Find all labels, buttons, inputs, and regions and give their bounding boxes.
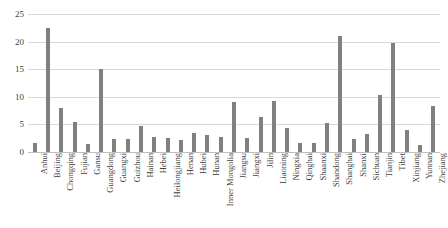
x-axis-tick-label: Hunan xyxy=(211,153,222,228)
bar xyxy=(46,28,50,152)
x-axis-tick-label: Beijing xyxy=(52,153,63,228)
bar xyxy=(219,137,223,152)
bar xyxy=(405,130,409,152)
x-axis-tick-label: Shanghai xyxy=(344,153,355,228)
bar xyxy=(391,43,395,152)
x-axis-tick-label: Sichuan xyxy=(371,153,382,228)
bar xyxy=(152,137,156,152)
x-axis-tick-label: Guizhou xyxy=(132,153,143,228)
bar xyxy=(205,135,209,152)
x-axis-tick-label: Tianjin xyxy=(384,153,395,228)
bar xyxy=(338,36,342,152)
x-axis: AnhuiBeijingChongqingFujianGansuGuangdon… xyxy=(28,153,440,228)
bar xyxy=(166,138,170,152)
bar xyxy=(259,117,263,152)
x-axis-tick-label: Zhejiang xyxy=(437,153,448,228)
bar xyxy=(245,138,249,152)
x-axis-tick-label: Chongqing xyxy=(65,153,76,228)
bar xyxy=(298,143,302,152)
y-axis-tick-label: 0 xyxy=(0,148,24,157)
bar xyxy=(312,143,316,152)
x-axis-tick-label: Qinghai xyxy=(304,153,315,228)
x-axis-tick-label: Hebei xyxy=(158,153,169,228)
x-axis-tick-label: Xinjiang xyxy=(411,153,422,228)
y-axis-tick-label: 10 xyxy=(0,92,24,101)
bar xyxy=(192,133,196,152)
bar xyxy=(59,108,63,152)
bar xyxy=(112,139,116,152)
bar xyxy=(378,95,382,152)
y-axis-tick-label: 25 xyxy=(0,10,24,19)
x-axis-tick-label: Henan xyxy=(185,153,196,228)
bar xyxy=(325,123,329,152)
bar xyxy=(232,102,236,152)
x-axis-tick-label: Tibet xyxy=(397,153,408,228)
bar xyxy=(272,101,276,152)
x-axis-tick-label: Guangxi xyxy=(118,153,129,228)
x-axis-tick-label: Shandong xyxy=(331,153,342,228)
x-axis-tick-label: Inner Mongolia xyxy=(225,153,236,228)
bar xyxy=(431,106,435,152)
x-axis-tick-label: Jiangxi xyxy=(251,153,262,228)
bar xyxy=(99,69,103,152)
bar xyxy=(126,139,130,152)
x-axis-tick-label: Shanxi xyxy=(358,153,369,228)
x-axis-tick-label: Gansu xyxy=(92,153,103,228)
bar xyxy=(73,122,77,152)
x-axis-tick-label: Jiangsu xyxy=(238,153,249,228)
x-axis-tick-label: Liaoning xyxy=(278,153,289,228)
x-axis-tick-label: Hainan xyxy=(145,153,156,228)
x-axis-tick-label: Fujian xyxy=(79,153,90,228)
x-axis-tick-label: Hubei xyxy=(198,153,209,228)
y-axis: 0510152025 xyxy=(0,14,24,152)
x-axis-tick-label: Heilongjiang xyxy=(172,153,183,228)
y-axis-tick-label: 15 xyxy=(0,65,24,74)
x-axis-tick-label: Anhui xyxy=(39,153,50,228)
y-axis-tick-label: 20 xyxy=(0,37,24,46)
bar xyxy=(86,144,90,152)
x-axis-tick-label: Yunnan xyxy=(424,153,435,228)
bar xyxy=(365,134,369,152)
bar xyxy=(418,145,422,152)
x-axis-tick-label: Guangdong xyxy=(105,153,116,228)
bar xyxy=(352,139,356,152)
bar xyxy=(179,140,183,152)
bars-layer xyxy=(28,14,440,152)
x-axis-tick-label: Jilin xyxy=(265,153,276,228)
bar xyxy=(33,143,37,152)
bar xyxy=(285,128,289,152)
x-axis-tick-label: Ningxia xyxy=(291,153,302,228)
x-axis-tick-label: Shaanxi xyxy=(318,153,329,228)
bar xyxy=(139,126,143,152)
y-axis-tick-label: 5 xyxy=(0,120,24,129)
